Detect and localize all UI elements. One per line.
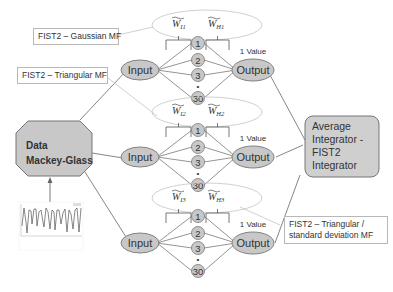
network-3: 12330•InputOutput1 ValueWI3WH3 [121,183,274,278]
weight-label: WH1 [208,18,224,30]
weight-ellipse [152,183,262,213]
weight-label: WH3 [208,191,225,203]
neuron-label: 3 [195,243,200,254]
neuron-label: 1 [195,38,200,49]
output-label: Output [236,151,269,163]
weight-bracket-icon [166,209,191,223]
network-1: 12330•InputOutput1 ValueWI1WH1 [121,10,274,105]
ellipsis-dot-icon: • [197,169,200,178]
data-node-label: Data Mackey-Glass [26,138,93,168]
input-label: Input [128,64,152,76]
neuron-label: 30 [193,180,204,191]
ellipsis-dot-icon: • [197,82,200,91]
neuron-label: 3 [195,157,200,168]
neuron-label: 2 [195,142,200,153]
mf-label-triangular-std: FIST2 – Triangular / standard deviation … [284,216,388,244]
neuron-label: 3 [195,70,200,81]
weight-ellipse [152,97,262,127]
output-value-note: 1 Value [240,134,267,143]
input-label: Input [128,237,152,249]
neuron-label: 1 [195,125,200,136]
arrow-head-icon [48,177,53,183]
weight-ellipse [152,10,262,40]
mf-label-triangular: FIST2 – Triangular MF [17,67,108,84]
ellipsis-dot-icon: • [197,255,200,264]
output-label: Output [236,64,269,76]
weight-label: WH2 [208,105,225,117]
neuron-label: 1 [195,211,200,222]
neuron-label: 2 [195,228,200,239]
mf-label-gaussian: FIST2 – Gaussian MF [33,28,119,45]
weight-label: WI1 [172,18,186,30]
output-label: Output [236,237,269,249]
output-value-note: 1 Value [240,47,267,56]
output-value-note: 1 Value [240,220,267,229]
neuron-label: 2 [195,55,200,66]
weight-bracket-icon [166,36,191,50]
neuron-label: 30 [193,266,204,277]
integrator-label: Average Integrator - FIST2 Integrator [312,120,363,172]
network-2: 12330•InputOutput1 ValueWI2WH2 [121,97,274,192]
weight-label: WI3 [172,191,187,203]
neuron-label: 30 [193,93,204,104]
input-label: Input [128,151,152,163]
weight-bracket-icon [166,123,191,137]
mackey-glass-thumbnail-chart [19,202,83,250]
weight-label: WI2 [172,105,187,117]
